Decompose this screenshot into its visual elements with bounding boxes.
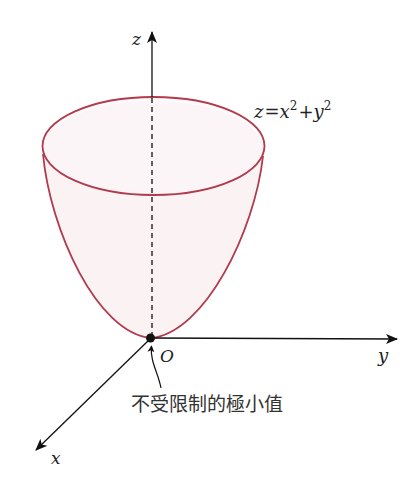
svg-text:z=x2+y2: z=x2+y2 [253, 99, 331, 122]
origin-point [146, 334, 155, 343]
y-axis-label: y [377, 345, 389, 366]
y-axis [151, 338, 397, 339]
origin-label: O [160, 346, 174, 366]
paraboloid-figure: z y x O z=x2+y2 不受限制的極小值 [0, 0, 417, 489]
unconstrained-minimum-annotation: 不受限制的極小值 [131, 393, 283, 415]
z-axis-label: z [131, 29, 142, 49]
surface-equation-label: z=x2+y2 [253, 99, 331, 122]
paraboloid-rim-ellipse [43, 97, 265, 195]
x-axis-label: x [51, 448, 61, 468]
